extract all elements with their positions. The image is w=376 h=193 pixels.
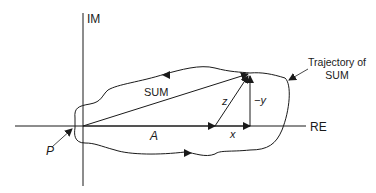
a-label: A [150,130,158,142]
z-vector [215,76,248,126]
trajectory-curve [75,67,290,156]
neg-y-label: −y [254,95,266,106]
sum-label: SUM [144,87,168,98]
re-axis-label: RE [310,121,327,133]
p-pointer [52,129,72,147]
trajectory-label-line2: SUM [325,69,348,81]
trajectory-label-line1: Trajectory of [308,56,366,68]
trajectory-arrow-bottom-icon [184,149,192,157]
trajectory-arrow-top-icon [162,71,170,79]
p-label: P [46,145,54,157]
im-axis-label: IM [87,13,100,25]
x-label: x [230,129,236,140]
trajectory-label: Trajectory of SUM [302,56,372,82]
z-label: z [222,96,228,107]
phasor-diagram [0,0,376,193]
